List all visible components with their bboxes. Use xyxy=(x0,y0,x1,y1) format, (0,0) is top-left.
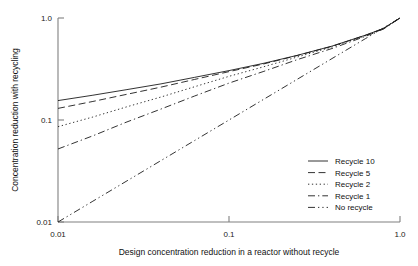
y-tick-label-0.01: 0.01 xyxy=(36,218,52,227)
legend-label-recycle-1: Recycle 1 xyxy=(335,192,371,201)
chart-canvas: 1.0 0.1 0.01 0.01 0.1 1.0 Design concent… xyxy=(0,0,418,266)
y-tick-label-0.1: 0.1 xyxy=(41,116,53,125)
y-axis-title: Concentration reduction with recycling xyxy=(10,48,20,192)
y-tick-label-1.0: 1.0 xyxy=(41,14,53,23)
legend-label-no-recycle: No recycle xyxy=(335,203,373,212)
x-tick-label-1.0: 1.0 xyxy=(394,230,406,239)
x-tick-label-0.1: 0.1 xyxy=(223,230,235,239)
chart-figure: 1.0 0.1 0.01 0.01 0.1 1.0 Design concent… xyxy=(0,0,418,266)
x-tick-label-0.01: 0.01 xyxy=(50,230,66,239)
legend-label-recycle-10: Recycle 10 xyxy=(335,157,375,166)
legend-label-recycle-2: Recycle 2 xyxy=(335,180,371,189)
legend-label-recycle-5: Recycle 5 xyxy=(335,169,371,178)
x-axis-title: Design concentration reduction in a reac… xyxy=(119,247,340,257)
